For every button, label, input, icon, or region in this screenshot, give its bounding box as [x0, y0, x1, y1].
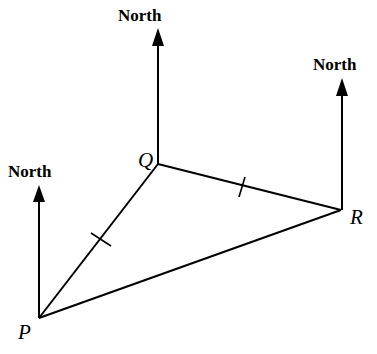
bearing-diagram: North North North Q R P: [0, 0, 377, 354]
point-label-p: P: [18, 320, 31, 345]
side-pq: [39, 164, 158, 318]
north-label-p: North: [8, 162, 51, 182]
tick-mark-qr: [239, 177, 245, 197]
point-label-q: Q: [138, 148, 153, 173]
north-arrow-q: [152, 28, 164, 164]
north-label-q: North: [118, 6, 161, 26]
tick-mark-pq: [91, 233, 111, 246]
side-qr: [158, 164, 341, 210]
north-arrow-r: [336, 78, 348, 210]
diagram-canvas: [0, 0, 377, 354]
north-arrow-p: [33, 185, 45, 318]
north-label-r: North: [313, 55, 356, 75]
side-pr: [39, 210, 341, 318]
point-label-r: R: [350, 205, 363, 230]
